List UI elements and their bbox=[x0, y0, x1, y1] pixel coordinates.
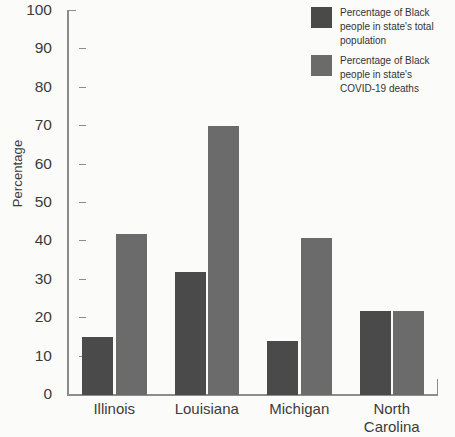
y-tick-label: 50 bbox=[22, 194, 52, 210]
legend-swatch-icon bbox=[311, 55, 332, 76]
legend-label: Percentage of Blackpeople in state'sCOVI… bbox=[340, 54, 430, 95]
legend-label-line2: people in state's bbox=[340, 68, 430, 82]
y-tick-label: 10 bbox=[22, 348, 52, 364]
legend-label-line3: population bbox=[340, 34, 434, 48]
bar-illinois-series1 bbox=[82, 337, 113, 395]
x-axis-label: NorthCarolina bbox=[337, 400, 447, 437]
bar-louisiana-series1 bbox=[175, 272, 206, 395]
legend-label-line1: Percentage of Black bbox=[340, 54, 430, 68]
legend-swatch-icon bbox=[311, 7, 332, 28]
y-tick-label: 30 bbox=[22, 271, 52, 287]
y-tick-label: 40 bbox=[22, 232, 52, 248]
legend-label-line3: COVID-19 deaths bbox=[340, 82, 430, 96]
y-tick-label: 60 bbox=[22, 156, 52, 172]
y-axis-ticks: 1009080706050403020100 bbox=[18, 0, 52, 437]
y-tick-label: 100 bbox=[22, 2, 52, 18]
bar-chart: Percentage 1009080706050403020100 Illino… bbox=[0, 0, 455, 437]
y-tick-label: 0 bbox=[22, 386, 52, 402]
legend-item[interactable]: Percentage of Blackpeople in state'sCOVI… bbox=[311, 54, 455, 95]
legend-label: Percentage of Blackpeople in state's tot… bbox=[340, 6, 434, 47]
bar-michigan-series2 bbox=[301, 238, 332, 395]
y-tick-label: 20 bbox=[22, 309, 52, 325]
y-tick-label: 70 bbox=[22, 117, 52, 133]
bar-north-carolina-series2 bbox=[393, 311, 424, 395]
bar-illinois-series2 bbox=[116, 234, 147, 395]
bar-michigan-series1 bbox=[267, 341, 298, 395]
chart-legend: Percentage of Blackpeople in state's tot… bbox=[311, 6, 455, 103]
legend-label-line1: Percentage of Black bbox=[340, 6, 434, 20]
x-axis-label-line1: North bbox=[337, 400, 447, 418]
bar-louisiana-series2 bbox=[208, 126, 239, 395]
y-tick-label: 90 bbox=[22, 40, 52, 56]
x-axis-label-line2: Carolina bbox=[337, 418, 447, 436]
legend-label-line2: people in state's total bbox=[340, 20, 434, 34]
y-tick-label: 80 bbox=[22, 79, 52, 95]
legend-item[interactable]: Percentage of Blackpeople in state's tot… bbox=[311, 6, 455, 47]
bar-north-carolina-series1 bbox=[360, 311, 391, 395]
